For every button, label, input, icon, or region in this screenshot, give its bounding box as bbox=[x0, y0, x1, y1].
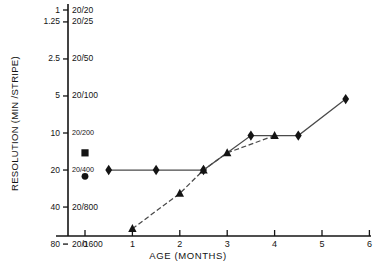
data-point-marker bbox=[342, 94, 349, 104]
y-tick-label-snellen-4: 20/200 bbox=[72, 128, 132, 137]
y-tick-label-snellen-3: 20/100 bbox=[72, 90, 132, 100]
x-tick-label-6: 6 bbox=[355, 239, 376, 249]
y-tick-label-snellen-5: 20/400 bbox=[72, 165, 132, 174]
y-tick-label-snellen-2: 20/50 bbox=[72, 53, 132, 63]
data-point-marker bbox=[295, 130, 302, 140]
y-tick-label-minutes-6: 40 bbox=[18, 202, 60, 212]
y-tick-label-minutes-5: 20 bbox=[18, 165, 60, 175]
data-point-marker bbox=[128, 224, 136, 232]
x-tick-label-2: 2 bbox=[166, 239, 194, 249]
x-tick-label-3: 3 bbox=[213, 239, 241, 249]
y-tick-label-minutes-4: 10 bbox=[18, 128, 60, 138]
series-line-diamond-series bbox=[109, 99, 346, 170]
series-newborn-square-point bbox=[81, 149, 88, 156]
y-tick-label-snellen-0: 20/20 bbox=[72, 5, 132, 15]
y-tick-label-minutes-0: 1 bbox=[18, 5, 60, 15]
series-diamond-series bbox=[105, 94, 349, 175]
x-tick-label-0: 0 bbox=[71, 239, 99, 249]
y-tick-label-minutes-7: 80 bbox=[18, 239, 60, 249]
x-tick-label-1: 1 bbox=[118, 239, 146, 249]
data-point-marker bbox=[81, 149, 88, 156]
x-axis-ticks bbox=[85, 230, 369, 236]
y-tick-label-minutes-2: 2.5 bbox=[18, 53, 60, 63]
series-line-triangle-series bbox=[132, 136, 274, 229]
series-triangle-series bbox=[128, 131, 279, 232]
y-tick-label-minutes-3: 5 bbox=[18, 90, 60, 100]
x-axis-title: AGE (MONTHS) bbox=[0, 250, 376, 261]
data-point-marker bbox=[153, 165, 160, 175]
data-point-marker bbox=[248, 130, 255, 140]
x-tick-label-4: 4 bbox=[261, 239, 289, 249]
y-tick-label-snellen-1: 20/25 bbox=[72, 16, 132, 26]
y-tick-label-snellen-6: 20/800 bbox=[72, 202, 132, 212]
x-tick-label-5: 5 bbox=[308, 239, 336, 249]
y-tick-label-minutes-1: 1.25 bbox=[18, 16, 60, 26]
